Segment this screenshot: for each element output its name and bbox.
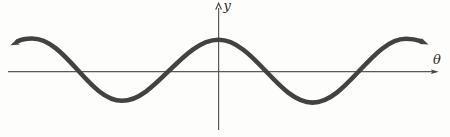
x-axis-label: θ — [433, 52, 441, 67]
plot-area: y θ — [0, 0, 450, 137]
cosine-graph-figure: y θ — [0, 0, 450, 137]
figure-background — [0, 0, 450, 137]
y-axis-label: y — [223, 0, 232, 13]
